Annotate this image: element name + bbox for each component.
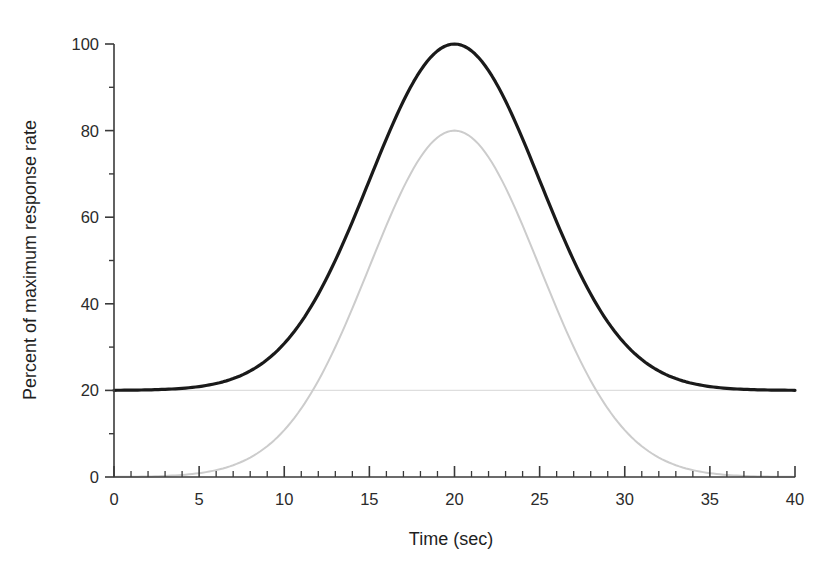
- x-axis-tick-label: 15: [360, 490, 378, 508]
- x-axis-tick-label: 40: [786, 490, 804, 508]
- x-axis-tick-label: 0: [109, 490, 118, 508]
- x-axis-tick-label: 10: [275, 490, 293, 508]
- figure-background: [0, 0, 839, 574]
- x-axis-title: Time (sec): [409, 529, 493, 549]
- x-axis-tick-label: 30: [616, 490, 634, 508]
- y-axis-tick-label: 40: [81, 295, 99, 313]
- y-axis-title: Percent of maximum response rate: [20, 120, 40, 400]
- y-axis-tick-label: 0: [90, 468, 99, 486]
- x-axis-tick-label: 25: [530, 490, 548, 508]
- chart-figure: 020406080100 0510152025303540 Time (sec)…: [0, 0, 839, 574]
- y-axis-tick-label: 100: [71, 35, 99, 53]
- x-axis-tick-label: 35: [701, 490, 719, 508]
- chart-canvas: 020406080100 0510152025303540 Time (sec)…: [0, 0, 839, 574]
- y-axis-tick-label: 80: [81, 122, 99, 140]
- x-axis-tick-label: 20: [445, 490, 463, 508]
- y-axis-tick-label: 20: [81, 381, 99, 399]
- x-axis-tick-label: 5: [195, 490, 204, 508]
- y-axis-tick-label: 60: [81, 208, 99, 226]
